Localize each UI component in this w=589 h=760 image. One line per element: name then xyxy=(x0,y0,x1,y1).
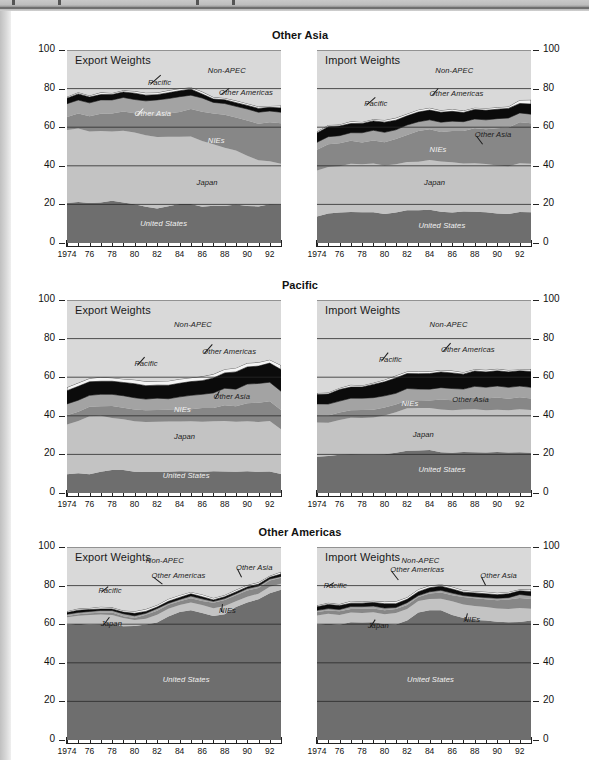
y-tick-dash xyxy=(533,166,539,167)
group-other-asia: Other AsiaExport WeightsNon-APECPacificO… xyxy=(11,29,589,269)
x-axis-label: 1974 xyxy=(305,249,329,259)
x-axis-label: 86 xyxy=(440,249,464,259)
x-axis-baseline xyxy=(316,743,532,744)
y-tick-dash xyxy=(59,586,65,587)
series-label-other-americas: Other Americas xyxy=(152,571,206,580)
group-pacific: PacificExport WeightsNon-APECOther Ameri… xyxy=(11,279,589,519)
y-tick-dash xyxy=(59,204,65,205)
y-tick-dash xyxy=(533,454,539,455)
y-axis-label: 0 xyxy=(543,236,549,247)
series-label-united-states: United States xyxy=(418,465,465,474)
series-label-non-apec: Non-APEC xyxy=(402,556,440,565)
y-tick-dash xyxy=(59,243,65,244)
x-axis-label: 76 xyxy=(78,249,102,259)
y-tick-dash xyxy=(533,416,539,417)
x-axis-label: 90 xyxy=(235,746,259,756)
y-axis-label: 80 xyxy=(27,82,55,93)
y-axis-label: 40 xyxy=(27,159,55,170)
x-axis-label: 92 xyxy=(508,249,532,259)
header-tick-3 xyxy=(196,0,199,5)
y-axis-label: 20 xyxy=(543,447,554,458)
y-axis-label: 0 xyxy=(543,486,549,497)
y-tick-dash xyxy=(59,624,65,625)
y-axis-label: 20 xyxy=(543,197,554,208)
y-axis-label: 60 xyxy=(543,120,554,131)
x-axis-label: 82 xyxy=(395,249,419,259)
x-axis-label: 84 xyxy=(168,249,192,259)
x-axis-label: 84 xyxy=(168,746,192,756)
y-tick-dash xyxy=(59,89,65,90)
x-axis-label: 90 xyxy=(235,249,259,259)
x-axis-label: 82 xyxy=(395,499,419,509)
x-axis-label: 88 xyxy=(463,499,487,509)
y-axis-label: 0 xyxy=(27,486,55,497)
x-axis-label: 76 xyxy=(328,249,352,259)
x-axis-label: 86 xyxy=(190,746,214,756)
x-axis-label: 92 xyxy=(258,249,282,259)
series-label-other-americas: Other Americas xyxy=(430,89,484,98)
header-tick-4 xyxy=(232,0,235,5)
x-axis-label: 82 xyxy=(145,249,169,259)
x-axis-label: 84 xyxy=(418,746,442,756)
x-axis-label: 78 xyxy=(350,249,374,259)
x-axis-label: 84 xyxy=(168,499,192,509)
x-axis-label: 90 xyxy=(485,499,509,509)
series-label-united-states: United States xyxy=(163,471,210,480)
x-axis-label: 90 xyxy=(235,499,259,509)
x-axis-label: 78 xyxy=(100,249,124,259)
group-other-americas: Other AmericasExport WeightsNon-APECOthe… xyxy=(11,526,589,760)
x-axis-label: 88 xyxy=(463,746,487,756)
document-header-bar xyxy=(0,0,589,11)
series-label-non-apec: Non-APEC xyxy=(146,556,184,565)
x-axis-baseline xyxy=(66,743,282,744)
series-label-united-states: United States xyxy=(163,675,210,684)
y-tick-dash xyxy=(533,300,539,301)
y-axis-label: 100 xyxy=(543,43,560,54)
x-axis-label: 80 xyxy=(123,499,147,509)
panel-title-import-weights: Import Weights xyxy=(325,54,400,66)
panel-title-import-weights: Import Weights xyxy=(325,551,400,563)
y-tick-dash xyxy=(533,493,539,494)
series-label-nies: NIEs xyxy=(208,136,225,145)
figure-sheet: Other AsiaExport WeightsNon-APECPacificO… xyxy=(11,11,589,760)
y-tick-dash xyxy=(533,377,539,378)
y-axis-label: 0 xyxy=(27,733,55,744)
x-axis-label: 80 xyxy=(373,249,397,259)
y-tick-dash xyxy=(59,663,65,664)
y-tick-dash xyxy=(59,493,65,494)
y-tick-dash xyxy=(59,740,65,741)
y-axis-label: 20 xyxy=(27,197,55,208)
y-axis-label: 80 xyxy=(543,82,554,93)
group-title: Other Americas xyxy=(11,526,589,538)
series-label-nies: NIEs xyxy=(430,145,447,154)
y-tick-dash xyxy=(533,243,539,244)
y-axis-label: 100 xyxy=(27,540,55,551)
y-axis-label: 100 xyxy=(27,43,55,54)
chart-other-americas-export: Export WeightsNon-APECOther AsiaOther Am… xyxy=(67,547,281,760)
y-axis-label: 40 xyxy=(543,409,554,420)
x-axis-label: 78 xyxy=(350,499,374,509)
y-tick-dash xyxy=(59,300,65,301)
chart-pacific-export: Export WeightsNon-APECOther AmericasPaci… xyxy=(67,300,281,517)
series-label-other-americas: Other Americas xyxy=(441,345,495,354)
x-axis-baseline xyxy=(66,246,282,247)
x-axis-label: 92 xyxy=(258,499,282,509)
x-axis-label: 1974 xyxy=(55,499,79,509)
x-axis-label: 86 xyxy=(440,499,464,509)
chart-pacific-import: Import WeightsNon-APECOther AmericasPaci… xyxy=(317,300,531,517)
x-axis-label: 82 xyxy=(395,746,419,756)
x-axis-label: 76 xyxy=(78,746,102,756)
x-axis-label: 80 xyxy=(373,746,397,756)
y-axis-label: 60 xyxy=(27,370,55,381)
series-label-japan: Japan xyxy=(174,432,195,441)
x-axis-label: 84 xyxy=(418,249,442,259)
area-japan xyxy=(317,160,531,216)
x-axis-label: 88 xyxy=(213,249,237,259)
chart-other-americas-import: Import WeightsNon-APECOther AsiaOther Am… xyxy=(317,547,531,760)
y-axis-label: 0 xyxy=(27,236,55,247)
y-axis-label: 100 xyxy=(543,293,560,304)
header-tick-1 xyxy=(12,0,15,5)
y-tick-dash xyxy=(533,701,539,702)
y-tick-dash xyxy=(533,50,539,51)
y-axis-label: 80 xyxy=(27,332,55,343)
